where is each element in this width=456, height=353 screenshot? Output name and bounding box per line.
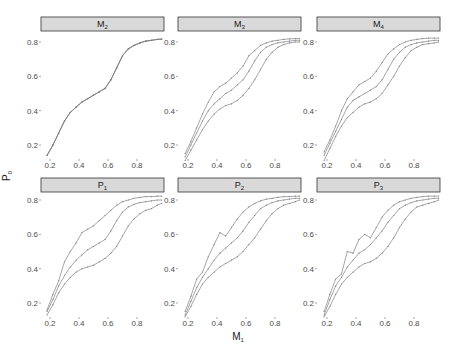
- data-point: [289, 38, 290, 39]
- data-point: [110, 210, 111, 211]
- data-point: [134, 218, 135, 219]
- data-point: [110, 79, 111, 80]
- data-point: [105, 239, 106, 240]
- data-point: [335, 278, 336, 279]
- data-point: [248, 88, 249, 89]
- data-point: [64, 261, 65, 262]
- data-point: [393, 76, 394, 77]
- data-point: [185, 153, 186, 154]
- data-point: [289, 199, 290, 200]
- x-axis-title: M1: [232, 331, 244, 343]
- data-point: [185, 156, 186, 157]
- data-point: [139, 42, 140, 43]
- data-point: [99, 91, 100, 92]
- data-point: [190, 306, 191, 307]
- data-point: [231, 260, 232, 261]
- data-point: [260, 45, 261, 46]
- data-point: [266, 205, 267, 206]
- data-point: [277, 208, 278, 209]
- data-point: [364, 93, 365, 94]
- data-point: [237, 237, 238, 238]
- data-point: [382, 79, 383, 80]
- data-point: [58, 280, 59, 281]
- data-point: [93, 95, 94, 96]
- data-point: [416, 197, 417, 198]
- series-line-upper: [185, 196, 300, 311]
- data-point: [225, 236, 226, 237]
- data-point: [105, 258, 106, 259]
- data-point: [428, 41, 429, 42]
- data-point: [116, 67, 117, 68]
- data-point: [260, 200, 261, 201]
- data-point: [387, 210, 388, 211]
- data-point: [185, 160, 186, 161]
- data-point: [393, 205, 394, 206]
- data-point: [324, 151, 325, 152]
- data-point: [277, 47, 278, 48]
- data-point: [254, 203, 255, 204]
- data-point: [64, 284, 65, 285]
- data-point: [157, 199, 158, 200]
- data-point: [341, 110, 342, 111]
- y-tick-label: 0.4: [27, 265, 39, 274]
- data-point: [289, 196, 290, 197]
- data-point: [416, 39, 417, 40]
- x-tick-label: 0.6: [102, 161, 114, 170]
- y-tick-label: 0.8: [303, 196, 315, 205]
- data-point: [219, 253, 220, 254]
- data-point: [70, 251, 71, 252]
- data-point: [116, 246, 117, 247]
- data-point: [87, 229, 88, 230]
- data-point: [358, 107, 359, 108]
- data-point: [364, 234, 365, 235]
- data-point: [202, 114, 203, 115]
- series-line-middle: [324, 198, 439, 315]
- data-point: [225, 263, 226, 264]
- data-point: [434, 196, 435, 197]
- data-point: [254, 215, 255, 216]
- data-point: [254, 79, 255, 80]
- data-point: [364, 103, 365, 104]
- y-tick-label: 0.8: [164, 38, 176, 47]
- data-point: [231, 78, 232, 79]
- x-tick-label: 0.2: [44, 161, 56, 170]
- data-point: [70, 266, 71, 267]
- data-point: [277, 40, 278, 41]
- data-point: [243, 65, 244, 66]
- y-tick-label: 0.4: [27, 107, 39, 116]
- x-tick-label: 0.2: [182, 319, 194, 328]
- y-tick-label: 0.4: [303, 265, 315, 274]
- data-point: [382, 217, 383, 218]
- data-point: [70, 277, 71, 278]
- data-point: [370, 261, 371, 262]
- data-point: [434, 198, 435, 199]
- x-tick-label: 0.2: [44, 319, 56, 328]
- x-tick-label: 0.8: [408, 161, 420, 170]
- data-point: [393, 48, 394, 49]
- data-point: [376, 71, 377, 72]
- data-point: [399, 227, 400, 228]
- y-tick-label: 0.8: [303, 38, 315, 47]
- x-tick-label: 0.4: [73, 319, 85, 328]
- data-point: [52, 299, 53, 300]
- data-point: [134, 204, 135, 205]
- data-point: [399, 44, 400, 45]
- data-point: [399, 65, 400, 66]
- data-point: [122, 201, 123, 202]
- data-point: [225, 248, 226, 249]
- data-point: [214, 244, 215, 245]
- data-point: [289, 42, 290, 43]
- x-tick-label: 0.8: [131, 319, 143, 328]
- data-point: [347, 107, 348, 108]
- data-point: [370, 90, 371, 91]
- data-point: [399, 52, 400, 53]
- data-point: [295, 41, 296, 42]
- data-point: [438, 196, 439, 197]
- data-point: [47, 155, 48, 156]
- data-point: [434, 42, 435, 43]
- data-point: [324, 316, 325, 317]
- data-point: [335, 131, 336, 132]
- data-point: [329, 306, 330, 307]
- panel-m2: M20.20.40.60.80.20.40.60.8: [27, 17, 164, 170]
- data-point: [370, 244, 371, 245]
